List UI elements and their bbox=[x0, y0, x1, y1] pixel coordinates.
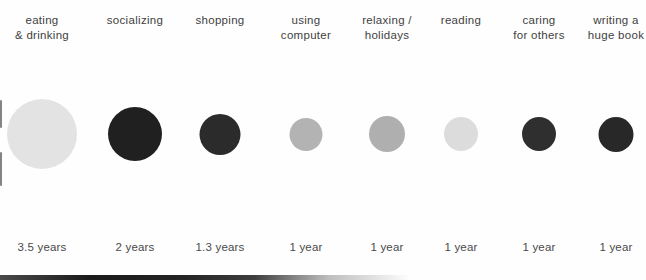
time-bubble bbox=[290, 118, 323, 151]
time-bubble bbox=[7, 99, 77, 169]
time-bubble bbox=[522, 117, 556, 151]
duration-label: 1 year bbox=[522, 240, 555, 254]
duration-label: 1 year bbox=[370, 240, 403, 254]
category-label-line: huge book bbox=[588, 28, 644, 43]
category-label-line: caring bbox=[513, 13, 565, 28]
category-label: caringfor others bbox=[513, 13, 565, 43]
category-label-line: holidays bbox=[362, 28, 412, 43]
category-label-line: computer bbox=[281, 28, 331, 43]
time-bubble bbox=[200, 114, 241, 155]
category-label-line: & drinking bbox=[15, 28, 69, 43]
scan-artifact-left-edge bbox=[0, 100, 2, 128]
scan-artifact-page-edge bbox=[0, 275, 410, 280]
duration-label: 1 year bbox=[599, 240, 632, 254]
category-label-line: writing a bbox=[588, 13, 644, 28]
category-label: usingcomputer bbox=[281, 13, 331, 43]
scan-artifact-left-edge bbox=[0, 152, 2, 186]
bubble-chart: eating& drinking3.5 yearssocializing2 ye… bbox=[0, 0, 646, 280]
category-label: relaxing /holidays bbox=[362, 13, 412, 43]
category-label-line: reading bbox=[441, 13, 481, 28]
category-label-line: eating bbox=[15, 13, 69, 28]
time-bubble bbox=[444, 117, 478, 151]
category-label: socializing bbox=[107, 13, 163, 28]
category-label-line: using bbox=[281, 13, 331, 28]
category-label: reading bbox=[441, 13, 481, 28]
duration-label: 1 year bbox=[444, 240, 477, 254]
duration-label: 2 years bbox=[115, 240, 154, 254]
time-bubble bbox=[599, 117, 634, 152]
duration-label: 1.3 years bbox=[195, 240, 244, 254]
category-label: eating& drinking bbox=[15, 13, 69, 43]
category-label-line: socializing bbox=[107, 13, 163, 28]
category-label-line: shopping bbox=[195, 13, 244, 28]
duration-label: 3.5 years bbox=[17, 240, 66, 254]
category-label-line: relaxing / bbox=[362, 13, 412, 28]
time-bubble bbox=[369, 116, 405, 152]
category-label-line: for others bbox=[513, 28, 565, 43]
time-bubble bbox=[108, 107, 162, 161]
duration-label: 1 year bbox=[289, 240, 322, 254]
category-label: writing ahuge book bbox=[588, 13, 644, 43]
category-label: shopping bbox=[195, 13, 244, 28]
